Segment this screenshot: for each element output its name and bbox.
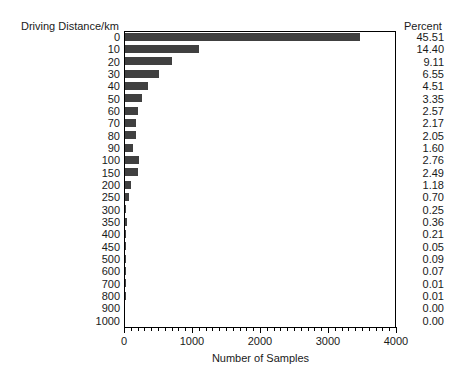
percent-value: 2.57	[400, 105, 444, 117]
percent-value: 0.01	[400, 290, 444, 302]
bar	[125, 168, 138, 176]
x-axis-minor-tick	[362, 328, 363, 331]
x-axis-minor-tick	[172, 328, 173, 331]
table-row: 1002.76	[0, 154, 456, 166]
x-axis-minor-tick	[369, 328, 370, 331]
percent-value: 0.09	[400, 253, 444, 265]
x-axis-minor-tick	[280, 328, 281, 331]
y-axis-tick-label: 0	[18, 31, 120, 43]
x-axis-minor-tick	[199, 328, 200, 331]
percent-value: 9.11	[400, 56, 444, 68]
table-row: 3000.25	[0, 204, 456, 216]
bar	[125, 144, 133, 152]
percent-value: 0.36	[400, 216, 444, 228]
percent-value: 2.76	[400, 154, 444, 166]
y-axis-tick-label: 1000	[18, 315, 120, 327]
percent-value: 0.00	[400, 302, 444, 314]
table-row: 8000.01	[0, 290, 456, 302]
bar	[125, 267, 126, 275]
x-axis-major-tick	[328, 328, 329, 333]
x-axis-minor-tick	[267, 328, 268, 331]
bar	[125, 82, 148, 90]
bar	[125, 45, 199, 53]
x-axis-title: Number of Samples	[124, 352, 397, 364]
percent-value: 0.05	[400, 241, 444, 253]
table-row: 306.55	[0, 68, 456, 80]
percent-value: 0.21	[400, 228, 444, 240]
bar	[125, 70, 159, 78]
percent-value: 45.51	[400, 31, 444, 43]
table-row: 2500.70	[0, 191, 456, 203]
x-axis-minor-tick	[233, 328, 234, 331]
x-axis-minor-tick	[178, 328, 179, 331]
table-row: 6000.07	[0, 265, 456, 277]
bar	[125, 218, 127, 226]
percent-value: 0.01	[400, 278, 444, 290]
bar	[125, 156, 139, 164]
percent-value: 0.25	[400, 204, 444, 216]
bar	[125, 255, 126, 263]
x-axis-tick-label: 3000	[308, 335, 348, 347]
bar	[125, 94, 142, 102]
x-axis-minor-tick	[376, 328, 377, 331]
bar	[125, 181, 131, 189]
percent-value: 2.17	[400, 117, 444, 129]
table-row: 802.05	[0, 130, 456, 142]
y-axis-tick-label: 60	[18, 105, 120, 117]
y-axis-tick-label: 30	[18, 68, 120, 80]
x-axis-minor-tick	[138, 328, 139, 331]
y-axis-tick-label: 200	[18, 179, 120, 191]
y-axis-tick-label: 20	[18, 56, 120, 68]
table-row: 10000.00	[0, 315, 456, 327]
x-axis-minor-tick	[165, 328, 166, 331]
bar	[125, 230, 126, 238]
x-axis-minor-tick	[219, 328, 220, 331]
x-axis-minor-tick	[253, 328, 254, 331]
x-axis-minor-tick	[294, 328, 295, 331]
x-axis-minor-tick	[131, 328, 132, 331]
table-row: 602.57	[0, 105, 456, 117]
percent-value: 0.00	[400, 315, 444, 327]
y-axis-tick-label: 50	[18, 93, 120, 105]
x-axis-minor-tick	[246, 328, 247, 331]
percent-value: 0.07	[400, 265, 444, 277]
table-row: 503.35	[0, 93, 456, 105]
x-axis-minor-tick	[151, 328, 152, 331]
x-axis-minor-tick	[226, 328, 227, 331]
table-row: 9000.00	[0, 302, 456, 314]
x-axis-minor-tick	[308, 328, 309, 331]
bar	[125, 292, 126, 300]
percent-value: 4.51	[400, 80, 444, 92]
table-row: 1014.40	[0, 43, 456, 55]
table-row: 5000.09	[0, 253, 456, 265]
bar	[125, 131, 136, 139]
y-axis-tick-label: 100	[18, 154, 120, 166]
percent-value: 2.49	[400, 167, 444, 179]
y-axis-tick-label: 250	[18, 191, 120, 203]
y-axis-tick-label: 700	[18, 278, 120, 290]
y-axis-tick-label: 800	[18, 290, 120, 302]
percent-value: 14.40	[400, 43, 444, 55]
table-row: 7000.01	[0, 278, 456, 290]
x-axis-minor-tick	[240, 328, 241, 331]
y-axis-tick-label: 40	[18, 80, 120, 92]
percent-value: 3.35	[400, 93, 444, 105]
x-axis-major-tick	[260, 328, 261, 333]
table-row: 4000.21	[0, 228, 456, 240]
percent-value: 0.70	[400, 191, 444, 203]
table-row: 901.60	[0, 142, 456, 154]
y-axis-tick-label: 400	[18, 228, 120, 240]
table-row: 209.11	[0, 56, 456, 68]
y-axis-tick-label: 500	[18, 253, 120, 265]
x-axis-minor-tick	[321, 328, 322, 331]
table-row: 2001.18	[0, 179, 456, 191]
bar	[125, 205, 126, 213]
x-axis-minor-tick	[287, 328, 288, 331]
x-axis-minor-tick	[355, 328, 356, 331]
x-axis-minor-tick	[314, 328, 315, 331]
x-axis-tick-label: 4000	[376, 335, 416, 347]
bar	[125, 33, 360, 41]
y-axis-tick-label: 80	[18, 130, 120, 142]
percent-value: 2.05	[400, 130, 444, 142]
y-axis-tick-label: 150	[18, 167, 120, 179]
